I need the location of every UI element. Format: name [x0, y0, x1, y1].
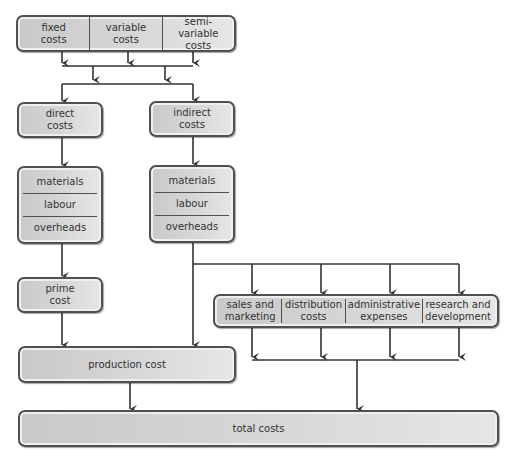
sales-marketing-cell: sales and marketing: [219, 299, 281, 323]
direct-costs-label: direct costs: [19, 104, 101, 136]
direct-breakdown-box: materials labour overheads: [17, 166, 103, 244]
production-cost-label: production cost: [20, 348, 234, 381]
direct-overheads: overheads: [23, 216, 97, 239]
production-cost-box: production cost: [18, 346, 236, 383]
direct-labour: labour: [23, 193, 97, 216]
indirect-labour: labour: [155, 192, 229, 215]
indirect-overheads: overheads: [155, 215, 229, 238]
indirect-breakdown-box: materials labour overheads: [149, 165, 235, 243]
indirect-costs-label: indirect costs: [151, 103, 233, 135]
prime-cost-box: prime cost: [17, 277, 103, 313]
prime-cost-label: prime cost: [19, 279, 101, 311]
semi-variable-costs-cell: semi-variable costs: [162, 17, 234, 50]
fixed-costs-cell: fixed costs: [18, 17, 89, 50]
variable-costs-cell: variable costs: [89, 17, 161, 50]
distribution-costs-cell: distribution costs: [281, 299, 344, 323]
indirect-materials: materials: [155, 170, 229, 192]
administrative-expenses-cell: administrative expenses: [345, 299, 422, 323]
indirect-costs-box: indirect costs: [149, 101, 235, 137]
research-development-cell: research and development: [422, 299, 493, 323]
total-costs-label: total costs: [20, 412, 497, 445]
total-costs-box: total costs: [18, 410, 499, 447]
direct-materials: materials: [23, 171, 97, 193]
cost-behaviour-box: fixed costs variable costs semi-variable…: [16, 15, 236, 52]
direct-costs-box: direct costs: [17, 102, 103, 138]
overhead-categories-box: sales and marketing distribution costs a…: [213, 294, 499, 328]
